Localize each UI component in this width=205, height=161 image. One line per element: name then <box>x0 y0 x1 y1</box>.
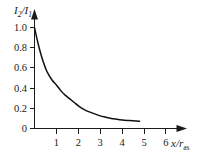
y-tick-label-4: 0.8 <box>14 42 27 53</box>
x-axis-title: x/ras <box>170 137 190 152</box>
y-tick-label-3: 0.6 <box>14 62 27 73</box>
chart-figure: 0 0.2 0.4 0.6 0.8 1.0 1 2 3 4 5 6 I2/I1 … <box>0 0 205 161</box>
y-tick-label-0: 0 <box>22 123 27 134</box>
y-axis-title-denominator-sub: 1 <box>28 10 32 19</box>
y-axis-arrowhead-icon <box>31 9 38 20</box>
data-curve-line <box>35 28 140 122</box>
x-tick-label-1: 1 <box>54 137 59 148</box>
x-tick-label-3: 3 <box>98 137 103 148</box>
x-tick-label-4: 4 <box>119 137 125 148</box>
y-tick-label-5: 1.0 <box>14 22 27 33</box>
y-tick-label-1: 0.2 <box>14 103 27 114</box>
x-axis-tick-labels: 1 2 3 4 5 6 <box>54 137 169 148</box>
y-tick-label-2: 0.4 <box>14 83 28 94</box>
chart-plot-area: 0 0.2 0.4 0.6 0.8 1.0 1 2 3 4 5 6 I2/I1 … <box>0 0 205 161</box>
x-axis-title-subscript: as <box>183 143 189 152</box>
x-tick-label-6: 6 <box>163 137 168 148</box>
y-axis-title: I2/I1 <box>13 4 32 19</box>
x-tick-label-5: 5 <box>141 137 146 148</box>
x-tick-label-2: 2 <box>76 137 81 148</box>
x-axis-arrowhead-icon <box>177 125 188 132</box>
x-axis-title-base: x/r <box>170 137 184 149</box>
x-axis-ticks <box>56 129 165 134</box>
y-axis-tick-labels: 0 0.2 0.4 0.6 0.8 1.0 <box>14 22 28 134</box>
y-axis-ticks <box>30 28 35 129</box>
